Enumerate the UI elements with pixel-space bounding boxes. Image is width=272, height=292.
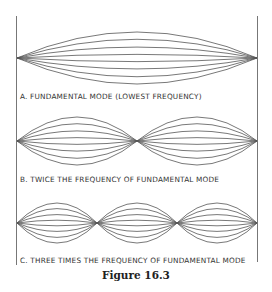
wave-curve (137, 124, 257, 141)
wave-curve (177, 209, 257, 223)
wave-curve (137, 138, 257, 141)
wave-curve (177, 223, 257, 226)
standing-wave-diagram (0, 0, 272, 292)
wave-curve (17, 124, 137, 141)
wave-curve (97, 223, 177, 226)
wave-curve (97, 209, 177, 223)
figure-caption: Figure 16.3 (0, 269, 272, 281)
wave-curve (17, 141, 137, 158)
wave-curve (97, 223, 177, 237)
wave-curve (17, 138, 137, 141)
wave-curve (137, 141, 257, 158)
wave-curve (137, 141, 257, 144)
wave-curve (17, 54, 257, 58)
wave-curve (17, 209, 97, 223)
wave-curve (17, 141, 137, 144)
panel-c-label: C. THREE TIMES THE FREQUENCY OF FUNDAMEN… (20, 256, 246, 265)
wave-curve (17, 223, 97, 226)
wave-curves (17, 32, 257, 243)
wave-curve (97, 220, 177, 223)
wave-curve (177, 220, 257, 223)
wave-curve (17, 220, 97, 223)
wave-curve (177, 223, 257, 237)
wave-curve (17, 58, 257, 62)
wave-curve (17, 223, 97, 237)
wave-curve (17, 58, 257, 77)
panel-b-label: B. TWICE THE FREQUENCY OF FUNDAMENTAL MO… (20, 175, 219, 184)
wave-curve (17, 39, 257, 58)
panel-a-label: A. FUNDAMENTAL MODE (LOWEST FREQUENCY) (20, 92, 202, 101)
